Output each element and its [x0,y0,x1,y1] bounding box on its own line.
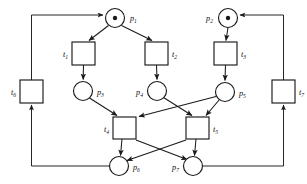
arc-p3-to-t4 [90,98,118,116]
transition-label-t1: t1 [63,50,68,60]
place-p5[interactable] [216,83,235,102]
arc-p1-to-t1 [89,26,109,41]
transition-t3[interactable] [214,42,237,65]
token-p1 [113,16,117,20]
place-label-p2: p2 [205,14,213,24]
transition-label-t7: t7 [299,88,304,98]
transition-t6[interactable] [20,80,43,103]
place-p4[interactable] [148,82,167,101]
place-label-p6: p6 [132,163,140,173]
transition-label-t4: t4 [104,125,109,135]
arc-p7-to-t7 [203,105,284,166]
place-label-p7: p7 [171,163,179,173]
arc-p2-to-t3 [226,28,228,41]
token-p2 [226,16,230,20]
place-p3[interactable] [74,82,93,101]
place-p6[interactable] [110,157,129,176]
arc-p1-to-t2 [122,26,153,41]
arc-p5-to-t4 [139,97,216,117]
arc-t4-to-p6 [121,139,123,156]
petri-net-diagram: t1t2t3t4t5t6t7p1p2p3p4p5p6p7 [0,0,307,184]
petri-net-canvas: t1t2t3t4t5t6t7p1p2p3p4p5p6p7 [0,0,307,184]
arc-t3-to-p5 [225,65,226,81]
arc-t5-to-p6 [127,140,186,161]
place-label-p5: p5 [238,89,246,99]
transition-t4[interactable] [113,117,136,139]
transition-t7[interactable] [272,80,295,103]
arc-t5-to-p7 [195,139,197,156]
arc-t7-to-p2 [240,15,284,80]
arc-t2-to-p4 [157,65,158,80]
place-label-p3: p3 [96,88,104,98]
arc-p6-to-t6 [32,105,110,166]
transition-label-t5: t5 [213,125,218,135]
place-label-p4: p4 [135,88,143,98]
transition-t5[interactable] [186,117,209,139]
transition-label-t6: t6 [11,88,16,98]
arc-t4-to-p7 [136,140,187,160]
transition-t1[interactable] [72,42,95,65]
transition-t2[interactable] [145,42,168,65]
place-label-p1: p1 [129,14,137,24]
arc-p5-to-t5 [206,100,220,116]
transition-label-t3: t3 [241,50,246,60]
place-p7[interactable] [184,157,203,176]
transition-label-t2: t2 [172,50,177,60]
